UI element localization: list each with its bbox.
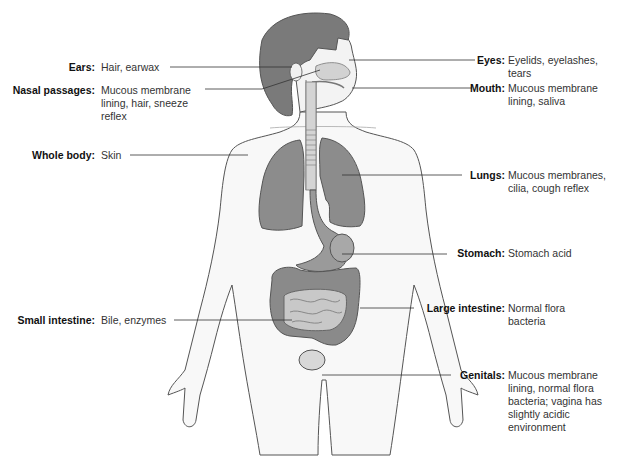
label-desc: Skin: [101, 149, 121, 162]
label-term: Mouth:: [470, 82, 505, 95]
label-desc: Mucous membrane lining, hair, sneeze ref…: [101, 84, 191, 123]
label-term: Whole body:: [32, 149, 95, 162]
label-desc: Mucous membrane lining, normal flora bac…: [508, 369, 602, 434]
label-desc: Hair, earwax: [101, 61, 159, 74]
label-term: Eyes:: [477, 54, 505, 67]
label-desc: Stomach acid: [508, 247, 572, 260]
label-term: Genitals:: [460, 369, 505, 382]
label-term: Ears:: [69, 61, 95, 74]
bladder: [299, 350, 325, 370]
label-term: Lungs:: [470, 169, 505, 182]
label-term: Nasal passages:: [13, 84, 95, 97]
small-intestine: [284, 289, 346, 330]
label-desc: Bile, enzymes: [101, 314, 166, 327]
label-desc: Mucous membranes, cilia, cough reflex: [508, 169, 606, 195]
label-term: Stomach:: [457, 247, 505, 260]
label-desc: Eyelids, eyelashes, tears: [508, 54, 598, 80]
label-desc: Mucous membrane lining, saliva: [508, 82, 598, 108]
label-term: Large intestine:: [427, 302, 505, 315]
label-term: Small intestine:: [17, 314, 95, 327]
label-desc: Normal flora bacteria: [508, 302, 565, 328]
